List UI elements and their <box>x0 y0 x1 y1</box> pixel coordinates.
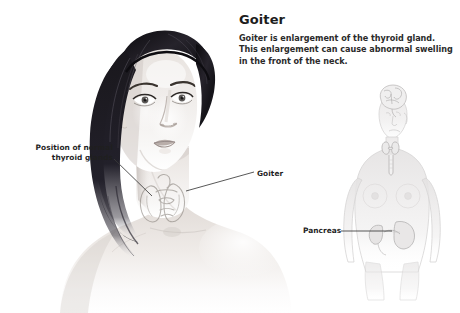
leader-line-normal-thyroid <box>114 159 152 196</box>
callout-normal-thyroid-line1: Position of normal <box>14 143 113 153</box>
article-body: Goiter is enlargement of the thyroid gla… <box>239 33 455 67</box>
illustration-canvas: Goiter Goiter is enlargement of the thyr… <box>0 0 460 313</box>
callout-pancreas: Pancreas <box>303 226 341 236</box>
callout-normal-thyroid: Position of normal thyroid glands <box>14 143 113 164</box>
article-text-block: Goiter Goiter is enlargement of the thyr… <box>239 12 455 67</box>
page-title: Goiter <box>239 12 455 27</box>
leader-line-goiter <box>186 172 254 191</box>
callout-normal-thyroid-line2: thyroid glands <box>14 153 113 163</box>
callout-goiter: Goiter <box>257 169 283 179</box>
